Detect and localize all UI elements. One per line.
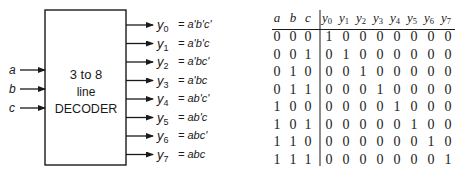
table-cell-output: 1 bbox=[326, 29, 333, 44]
table-cell-output: 0 bbox=[360, 82, 367, 97]
output-expression-y7: = abc bbox=[178, 148, 206, 160]
table-cell-input: 0 bbox=[305, 99, 312, 114]
table-header-y4: y4 bbox=[388, 10, 401, 26]
table-row: 01100010000 bbox=[274, 82, 452, 97]
table-cell-input: 0 bbox=[305, 29, 312, 44]
table-cell-input: 1 bbox=[305, 47, 312, 62]
decoder-block: 3 to 8 line DECODER bbox=[45, 10, 126, 165]
table-cell-output: 0 bbox=[377, 64, 384, 79]
table-cell-output: 0 bbox=[394, 47, 401, 62]
table-cell-output: 0 bbox=[428, 64, 435, 79]
table-cell-output: 0 bbox=[377, 117, 384, 132]
output-label-y2: y2 bbox=[156, 54, 169, 71]
table-cell-output: 0 bbox=[343, 29, 350, 44]
output-label-y5: y5 bbox=[156, 110, 169, 127]
table-cell-output: 0 bbox=[360, 47, 367, 62]
decoder-outputs: y0= a'b'c'y1= a'b'cy2= a'bc'y3= a'bcy4= … bbox=[126, 17, 212, 164]
table-cell-output: 0 bbox=[326, 82, 333, 97]
table-cell-output: 1 bbox=[445, 152, 452, 167]
decoder-title-line2: line bbox=[77, 85, 96, 99]
table-row: 11100000001 bbox=[274, 152, 452, 167]
table-cell-input: 0 bbox=[305, 64, 312, 79]
table-cell-output: 0 bbox=[394, 64, 401, 79]
table-cell-output: 0 bbox=[377, 29, 384, 44]
output-expression-y1: = a'b'c bbox=[178, 37, 210, 49]
table-cell-output: 0 bbox=[343, 134, 350, 149]
table-header-a: a bbox=[274, 10, 281, 25]
table-header-y2: y2 bbox=[354, 10, 366, 26]
table-row: 00010000000 bbox=[274, 29, 452, 44]
table-cell-output: 0 bbox=[360, 134, 367, 149]
output-label-y6: y6 bbox=[156, 128, 169, 145]
table-cell-output: 0 bbox=[377, 134, 384, 149]
table-cell-input: 0 bbox=[274, 64, 281, 79]
table-header-y7: y7 bbox=[439, 10, 451, 26]
table-cell-input: 1 bbox=[305, 117, 312, 132]
output-label-y7: y7 bbox=[156, 147, 169, 164]
table-cell-output: 0 bbox=[326, 99, 333, 114]
table-header-c: c bbox=[305, 10, 311, 25]
table-cell-output: 0 bbox=[394, 134, 401, 149]
output-label-y0: y0 bbox=[156, 17, 169, 34]
table-cell-output: 0 bbox=[343, 64, 350, 79]
decoder-title-line1: 3 to 8 bbox=[70, 67, 103, 82]
table-cell-output: 0 bbox=[360, 152, 367, 167]
output-expression-y5: = ab'c bbox=[178, 111, 208, 123]
table-cell-input: 0 bbox=[290, 117, 297, 132]
table-cell-output: 0 bbox=[445, 64, 452, 79]
table-cell-output: 0 bbox=[411, 47, 418, 62]
table-cell-output: 0 bbox=[343, 82, 350, 97]
table-cell-output: 0 bbox=[428, 152, 435, 167]
table-cell-output: 0 bbox=[377, 152, 384, 167]
table-cell-output: 0 bbox=[411, 82, 418, 97]
table-cell-input: 0 bbox=[290, 47, 297, 62]
table-cell-input: 1 bbox=[274, 117, 281, 132]
table-cell-output: 0 bbox=[411, 152, 418, 167]
table-cell-output: 0 bbox=[360, 117, 367, 132]
output-expression-y3: = a'bc bbox=[178, 74, 208, 86]
output-expression-y6: = abc' bbox=[178, 129, 208, 141]
table-cell-input: 0 bbox=[290, 29, 297, 44]
table-cell-output: 0 bbox=[411, 134, 418, 149]
table-header-y0: y0 bbox=[320, 10, 332, 26]
table-cell-input: 0 bbox=[290, 99, 297, 114]
table-cell-output: 0 bbox=[377, 47, 384, 62]
table-cell-output: 0 bbox=[360, 29, 367, 44]
table-cell-input: 1 bbox=[305, 82, 312, 97]
table-cell-input: 0 bbox=[274, 82, 281, 97]
table-header-y5: y5 bbox=[405, 10, 417, 26]
table-cell-output: 0 bbox=[394, 29, 401, 44]
output-label-y3: y3 bbox=[156, 73, 169, 90]
table-cell-output: 0 bbox=[326, 134, 333, 149]
table-cell-output: 0 bbox=[428, 117, 435, 132]
input-label-b: b bbox=[9, 82, 16, 96]
table-cell-output: 0 bbox=[360, 99, 367, 114]
table-cell-output: 0 bbox=[377, 99, 384, 114]
table-cell-output: 0 bbox=[343, 152, 350, 167]
table-cell-input: 1 bbox=[290, 82, 297, 97]
decoder-inputs: abc bbox=[9, 63, 45, 115]
table-cell-output: 0 bbox=[411, 99, 418, 114]
output-expression-y4: = ab'c' bbox=[178, 92, 210, 104]
table-cell-output: 0 bbox=[326, 117, 333, 132]
table-cell-output: 1 bbox=[343, 47, 350, 62]
table-cell-output: 0 bbox=[428, 82, 435, 97]
table-cell-input: 1 bbox=[274, 134, 281, 149]
table-cell-output: 1 bbox=[411, 117, 418, 132]
table-cell-output: 0 bbox=[326, 64, 333, 79]
table-cell-output: 0 bbox=[326, 152, 333, 167]
table-cell-output: 0 bbox=[343, 117, 350, 132]
table-cell-output: 0 bbox=[411, 29, 418, 44]
table-cell-input: 1 bbox=[290, 64, 297, 79]
table-cell-output: 0 bbox=[343, 99, 350, 114]
table-cell-output: 0 bbox=[394, 152, 401, 167]
table-cell-output: 0 bbox=[445, 134, 452, 149]
table-cell-output: 1 bbox=[377, 82, 384, 97]
input-label-a: a bbox=[9, 63, 16, 77]
table-header-y3: y3 bbox=[371, 10, 383, 26]
table-row: 11000000010 bbox=[274, 134, 452, 149]
table-cell-input: 1 bbox=[305, 152, 312, 167]
table-cell-output: 0 bbox=[428, 47, 435, 62]
output-expression-y0: = a'b'c' bbox=[178, 18, 212, 30]
table-cell-input: 1 bbox=[274, 99, 281, 114]
